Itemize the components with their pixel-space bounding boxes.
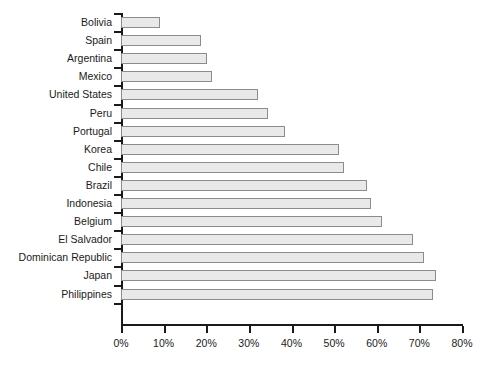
- bar: [121, 252, 424, 263]
- bar: [121, 35, 201, 46]
- category-label: Dominican Republic: [0, 252, 112, 263]
- y-axis-tick: [114, 248, 121, 250]
- y-axis-tick: [114, 67, 121, 69]
- category-label: Indonesia: [0, 198, 112, 209]
- bar: [121, 144, 339, 155]
- x-axis-tick-label: 40%: [272, 337, 312, 349]
- bar: [121, 108, 268, 119]
- x-axis-tick-label: 60%: [357, 337, 397, 349]
- category-label: Philippines: [0, 289, 112, 300]
- x-axis-tick: [121, 326, 123, 333]
- bar: [121, 126, 285, 137]
- x-axis-tick-label: 50%: [314, 337, 354, 349]
- category-label: Chile: [0, 162, 112, 173]
- x-axis-tick: [419, 326, 421, 333]
- category-label: Japan: [0, 270, 112, 281]
- category-label: Korea: [0, 144, 112, 155]
- x-axis-tick-label: 0%: [101, 337, 141, 349]
- x-axis-tick: [334, 326, 336, 333]
- bar: [121, 53, 207, 64]
- y-axis-tick: [114, 122, 121, 124]
- x-axis-tick: [164, 326, 166, 333]
- bar: [121, 71, 212, 82]
- x-axis-tick: [462, 326, 464, 333]
- bar: [121, 234, 413, 245]
- y-axis-tick: [114, 140, 121, 142]
- x-axis-tick: [206, 326, 208, 333]
- bar: [121, 180, 367, 191]
- y-axis-tick: [114, 230, 121, 232]
- category-label: Brazil: [0, 180, 112, 191]
- y-axis-tick: [114, 85, 121, 87]
- bar: [121, 289, 433, 300]
- category-label: Spain: [0, 35, 112, 46]
- category-label: Argentina: [0, 53, 112, 64]
- x-axis-tick: [249, 326, 251, 333]
- y-axis-tick: [114, 49, 121, 51]
- category-label: Mexico: [0, 71, 112, 82]
- y-axis-tick: [114, 158, 121, 160]
- plot-area: 0%10%20%30%40%50%60%70%80% BoliviaSpainA…: [0, 0, 484, 370]
- category-label: United States: [0, 89, 112, 100]
- category-label: El Salvador: [0, 234, 112, 245]
- category-label: Bolivia: [0, 17, 112, 28]
- y-axis-tick: [114, 266, 121, 268]
- bar-chart: 0%10%20%30%40%50%60%70%80% BoliviaSpainA…: [0, 0, 484, 370]
- y-axis-tick: [114, 13, 121, 15]
- y-axis-tick: [114, 285, 121, 287]
- x-axis-tick: [377, 326, 379, 333]
- category-label: Belgium: [0, 216, 112, 227]
- y-axis-tick: [114, 176, 121, 178]
- y-axis-tick: [114, 212, 121, 214]
- bar: [121, 198, 371, 209]
- y-axis-tick: [114, 194, 121, 196]
- category-label: Peru: [0, 108, 112, 119]
- y-axis-tick: [114, 303, 121, 305]
- x-axis-tick-label: 20%: [186, 337, 226, 349]
- bar: [121, 216, 382, 227]
- category-label: Portugal: [0, 126, 112, 137]
- bar: [121, 270, 436, 281]
- bar: [121, 89, 258, 100]
- x-axis-tick-label: 10%: [144, 337, 184, 349]
- x-axis-tick: [292, 326, 294, 333]
- x-axis-tick-label: 30%: [229, 337, 269, 349]
- x-axis-tick-label: 70%: [399, 337, 439, 349]
- y-axis-tick: [114, 31, 121, 33]
- bar: [121, 162, 344, 173]
- y-axis-tick: [114, 104, 121, 106]
- bar: [121, 17, 160, 28]
- x-axis-tick-label: 80%: [442, 337, 482, 349]
